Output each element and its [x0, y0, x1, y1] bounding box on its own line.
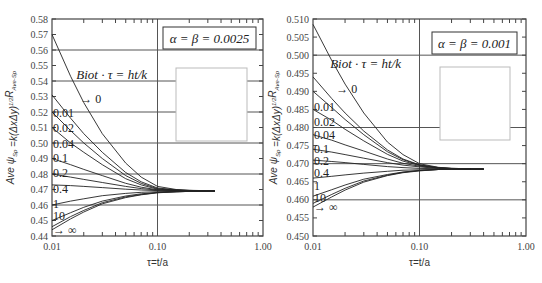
y-tick-label: 0.465	[287, 176, 310, 187]
x-tick-label: 1.00	[517, 241, 535, 252]
curve-label: → 0	[80, 92, 101, 106]
curve-label: 0.4	[53, 182, 68, 196]
x-axis-title: τ=t/a	[147, 257, 168, 268]
y-tick-label: 0.48	[31, 169, 49, 180]
x-tick-label: 0.01	[43, 241, 61, 252]
y-tick-label: 0.54	[31, 76, 49, 87]
inset-box	[440, 67, 510, 140]
inset-box	[176, 68, 247, 141]
curve-label: → ∞	[53, 223, 77, 237]
y-axis-title: Ave ψSp =k(ΔxΔy)1/2RAve-Sp	[267, 70, 282, 185]
y-tick-label: 0.55	[31, 60, 49, 71]
y-tick-label: 0.45	[31, 215, 49, 226]
curve-inf2	[313, 169, 484, 207]
y-tick-label: 0.50	[31, 138, 49, 149]
x-tick-label: 0.10	[411, 241, 429, 252]
y-tick-label: 0.490	[287, 86, 310, 97]
legend-title: Biot · τ = ht/k	[330, 56, 401, 71]
y-tick-label: 0.53	[31, 91, 49, 102]
chart-right: 0.4500.4550.4600.4650.4700.4750.4800.485…	[267, 14, 535, 269]
curve-0.2	[52, 174, 215, 191]
x-axis-title: τ=t/a	[409, 257, 430, 268]
curve-label: 0.01	[314, 100, 335, 114]
y-tick-label: 0.475	[287, 140, 310, 151]
curve-label: 10	[53, 209, 65, 223]
curve-label: 0.02	[314, 115, 335, 129]
y-tick-label: 0.56	[31, 45, 49, 56]
y-tick-label: 0.495	[287, 68, 310, 79]
chart-left: 0.440.450.460.470.480.490.500.510.520.53…	[4, 14, 272, 269]
figure-canvas: 0.440.450.460.470.480.490.500.510.520.53…	[0, 0, 542, 283]
curve-label: → ∞	[314, 200, 338, 214]
curve-inf	[313, 169, 484, 203]
x-tick-label: 1.00	[254, 241, 272, 252]
y-tick-label: 0.49	[31, 153, 49, 164]
y-axis-title: Ave ψSp =k(ΔxΔy)1/2RAve-Sp	[4, 70, 19, 185]
y-tick-label: 0.57	[31, 29, 49, 40]
curve-label: 0.2	[53, 166, 68, 180]
parameter-label: α = β = 0.0025	[170, 31, 250, 46]
y-tick-label: 0.58	[31, 14, 49, 25]
y-tick-label: 0.455	[287, 212, 310, 223]
curve-label: 0.1	[53, 151, 68, 165]
curve-label: 0.02	[53, 121, 74, 135]
x-tick-label: 0.01	[304, 241, 322, 252]
curve-label: 0.01	[53, 106, 74, 120]
y-tick-label: 0.480	[287, 122, 310, 133]
parameter-label: α = β = 0.001	[438, 36, 511, 51]
y-tick-label: 0.485	[287, 104, 310, 115]
curve-label: → 0	[336, 82, 357, 96]
y-tick-label: 0.44	[31, 231, 49, 242]
x-tick-label: 0.10	[149, 241, 167, 252]
y-tick-label: 0.505	[287, 32, 310, 43]
curve-1	[52, 191, 215, 205]
y-tick-label: 0.510	[287, 14, 310, 25]
y-tick-label: 0.52	[31, 107, 49, 118]
y-tick-label: 0.500	[287, 50, 310, 61]
y-tick-label: 0.470	[287, 158, 310, 169]
y-tick-label: 0.450	[287, 231, 310, 242]
y-tick-label: 0.51	[31, 122, 49, 133]
y-tick-label: 0.460	[287, 194, 310, 205]
curve-label: 0.04	[314, 128, 335, 142]
legend-title: Biot · τ = ht/k	[76, 67, 147, 82]
y-tick-label: 0.47	[31, 184, 49, 195]
curve-label: 0.04	[53, 137, 74, 151]
y-tick-label: 0.46	[31, 200, 49, 211]
